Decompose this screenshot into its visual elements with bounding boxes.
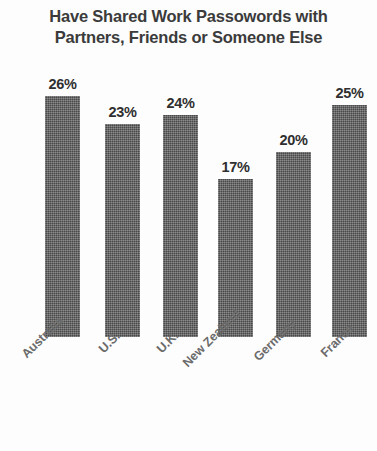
- bar-value-new-zealand: 17%: [208, 159, 263, 175]
- bar-value-uk: 24%: [153, 95, 208, 111]
- plot-area: 26% 23% 24% 17% 20% 25%: [0, 0, 377, 337]
- bar-us: [105, 124, 140, 337]
- bar-value-france: 25%: [322, 85, 377, 101]
- bar-australia: [45, 96, 80, 337]
- bar-france: [332, 105, 367, 337]
- bar-germany: [276, 152, 311, 337]
- bar-group: 23%: [105, 0, 140, 337]
- bar-uk: [163, 115, 198, 337]
- bar-group: 17%: [218, 0, 253, 337]
- bar-group: 26%: [45, 0, 80, 337]
- bar-chart: Have Shared Work Passowords with Partner…: [0, 0, 377, 451]
- bar-value-us: 23%: [95, 104, 150, 120]
- bar-value-germany: 20%: [266, 132, 321, 148]
- bar-value-australia: 26%: [35, 76, 90, 92]
- bar-group: 24%: [163, 0, 198, 337]
- bar-group: 20%: [276, 0, 311, 337]
- bar-group: 25%: [332, 0, 367, 337]
